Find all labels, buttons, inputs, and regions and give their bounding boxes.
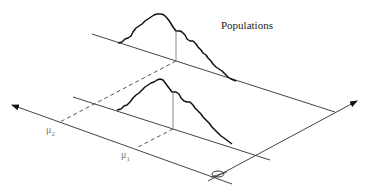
- population-2-baseline: [92, 34, 335, 112]
- diagram-title: Populations: [221, 19, 273, 31]
- mu-2-label: μ2: [46, 124, 55, 138]
- mu-2-subscript: 2: [51, 130, 55, 138]
- mean-axis-arrow: [12, 105, 232, 184]
- mu-1-label: μ1: [121, 149, 130, 163]
- mean-1-projection-dashed: [138, 129, 173, 147]
- mean-2-projection-dashed: [60, 61, 176, 122]
- origin-tick: [211, 172, 227, 177]
- mu-1-subscript: 1: [126, 155, 130, 163]
- populations-diagram: [0, 0, 368, 186]
- population-1-baseline: [73, 97, 270, 160]
- population-1-distribution-curve: [117, 79, 232, 144]
- population-axis-arrow: [208, 101, 357, 181]
- population-2-distribution-curve: [118, 14, 236, 81]
